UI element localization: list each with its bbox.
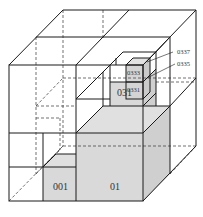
cell-label-0331: 0331: [127, 87, 140, 94]
cell-label-001: 001: [53, 182, 68, 192]
callout-label-0335: 0335: [177, 61, 190, 68]
cell-label-01: 01: [110, 182, 120, 192]
cell-label-0333: 0333: [127, 70, 140, 77]
callout-label-0337: 0337: [177, 49, 190, 56]
octree-diagram: 001 01 031 0331 0333 0337 0335: [0, 0, 203, 217]
octree-cube-drawing: [0, 0, 203, 217]
